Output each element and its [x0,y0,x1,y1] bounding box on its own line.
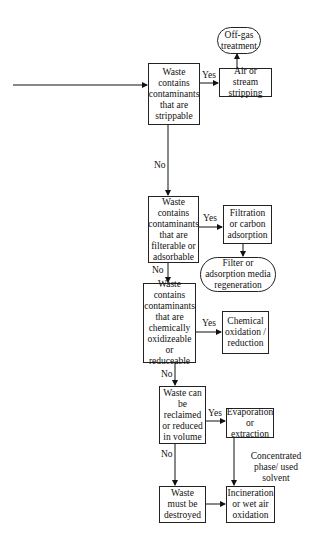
yes-label-3: Yes [202,318,216,329]
yes-label-4: Yes [208,408,222,419]
process-regeneration: Filter or adsorption media regeneration [200,257,276,292]
process-evaporation-text: Evaporation or extraction [227,407,273,440]
process-incineration: Incineration or wet air oxidation [226,486,275,523]
process-regeneration-text: Filter or adsorption media regeneration [202,258,274,291]
process-filtration-text: Filtration or carbon adsorption [225,208,270,241]
process-offgas: Off-gas treatment [217,27,261,54]
process-stripping-text: Air or stream stripping [221,66,270,99]
decision-strippable-text: Waste contains contaminants that are str… [149,67,200,122]
process-evaporation: Evaporation or extraction [226,408,274,438]
no-label-4: No [161,449,173,460]
process-incineration-text: Incineration or wet air oxidation [228,488,274,521]
decision-reclaimable-text: Waste can be reclaimed or reduced in vol… [161,388,204,443]
decision-oxidizeable: Waste contains contaminants that are che… [143,283,196,363]
decision-strippable: Waste contains contaminants that are str… [148,63,200,125]
decision-filterable: Waste contains contaminants that are fil… [148,196,199,263]
no-label-1: No [154,160,166,171]
yes-label-1: Yes [202,70,216,81]
no-label-2: No [152,265,164,276]
process-filtration: Filtration or carbon adsorption [223,205,272,244]
process-chemical: Chemical oxidation / reduction [222,311,269,354]
decision-filterable-text: Waste contains contaminants that are fil… [148,197,199,263]
process-chemical-text: Chemical oxidation / reduction [224,316,267,349]
decision-oxidizeable-text: Waste contains contaminants that are che… [144,279,195,367]
concentrated-phase-label: Concentrated phase/ used solvent [240,451,312,484]
process-stripping: Air or stream stripping [219,68,272,97]
decision-destroy-text: Waste must be destroyed [161,488,204,521]
no-label-3: No [161,369,173,380]
yes-label-2: Yes [203,213,217,224]
decision-destroy: Waste must be destroyed [159,486,206,523]
process-offgas-text: Off-gas treatment [219,30,259,52]
decision-reclaimable: Waste can be reclaimed or reduced in vol… [159,386,206,444]
